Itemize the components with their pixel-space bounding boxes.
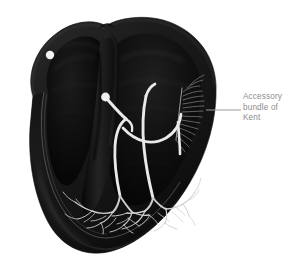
- callout-label-line-2: bundle of: [243, 103, 299, 114]
- atrioventricular-node-icon: [101, 93, 110, 102]
- callout-label-line-1: Accessory: [243, 92, 299, 103]
- figure-root: Accessory bundle of Kent: [0, 0, 299, 267]
- callout-label: Accessory bundle of Kent: [243, 92, 299, 124]
- sinoatrial-node-icon: [46, 51, 54, 59]
- callout-label-line-3: Kent: [243, 113, 299, 124]
- heart-illustration: [0, 0, 299, 267]
